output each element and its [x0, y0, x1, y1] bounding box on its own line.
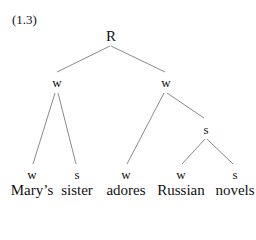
edge-s-novels [207, 139, 233, 164]
word-marys: Mary’s [11, 183, 54, 198]
leaf-label-novels: s [232, 168, 237, 181]
node-mid-s: s [203, 123, 208, 136]
edge-leftw-marys [33, 93, 55, 164]
edge-rightw-s [167, 93, 204, 118]
node-left-w: w [52, 76, 61, 89]
edge-root-left [57, 46, 110, 72]
word-sister: sister [61, 183, 93, 198]
leaf-label-russian: w [176, 168, 185, 181]
word-adores: adores [106, 183, 145, 198]
edge-leftw-sister [58, 93, 76, 164]
edge-root-right [111, 46, 165, 72]
leaf-label-sister: s [74, 168, 79, 181]
leaf-label-adores: w [121, 168, 130, 181]
node-right-w: w [161, 76, 170, 89]
leaf-label-marys: w [27, 168, 36, 181]
word-novels: novels [215, 183, 254, 198]
edge-s-russian [182, 139, 205, 164]
edge-rightw-adores [127, 93, 164, 164]
word-russian: Russian [157, 183, 205, 198]
root-node: R [106, 29, 116, 44]
